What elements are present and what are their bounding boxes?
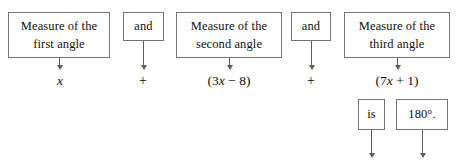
arrow-and-1-head xyxy=(141,65,147,70)
box-is-line1: is xyxy=(367,105,376,123)
arrow-one-eighty-line xyxy=(422,130,423,154)
box-and-1: and xyxy=(123,12,164,41)
box-third-angle-line2: third angle xyxy=(370,35,425,53)
arrow-is-head xyxy=(369,153,375,158)
box-and-2: and xyxy=(291,12,331,41)
arrow-is-line xyxy=(371,130,372,154)
arrow-and-2-head xyxy=(309,65,315,70)
arrow-one-eighty-head xyxy=(420,153,426,158)
box-one-eighty-line1: 180°. xyxy=(408,105,435,123)
verbal-model-diagram: Measure of thefirst angleandMeasure of t… xyxy=(0,0,464,162)
expression-x-term: x xyxy=(57,73,63,89)
box-second-angle: Measure of thesecond angle xyxy=(176,12,282,58)
expression-three-x-minus-eight: (3x − 8) xyxy=(208,73,251,89)
arrow-third-angle-head xyxy=(395,65,401,70)
arrow-and-1-line xyxy=(143,41,144,66)
box-first-angle-line1: Measure of the xyxy=(21,17,97,35)
box-is: is xyxy=(358,99,385,130)
arrow-second-angle-head xyxy=(227,65,233,70)
expression-seven-x-plus-one: (7x + 1) xyxy=(376,73,419,89)
box-first-angle: Measure of thefirst angle xyxy=(8,12,110,58)
box-first-angle-line2: first angle xyxy=(33,35,84,53)
box-and-1-line1: and xyxy=(134,17,152,35)
expression-plus-2: + xyxy=(307,73,315,89)
arrow-first-angle-head xyxy=(57,65,63,70)
box-and-2-line1: and xyxy=(302,17,320,35)
expression-plus-1: + xyxy=(139,73,147,89)
box-one-eighty: 180°. xyxy=(396,99,448,130)
box-second-angle-line1: Measure of the xyxy=(191,17,267,35)
box-second-angle-line2: second angle xyxy=(196,35,262,53)
box-third-angle: Measure of thethird angle xyxy=(344,12,450,58)
arrow-and-2-line xyxy=(311,41,312,66)
box-third-angle-line1: Measure of the xyxy=(359,17,435,35)
